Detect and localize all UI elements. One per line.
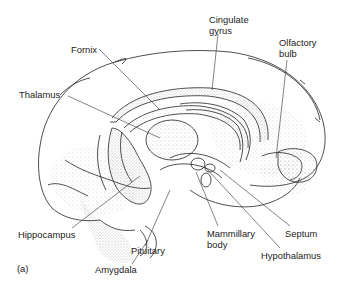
label-septum: Septum: [285, 228, 317, 239]
label-thalamus: Thalamus: [19, 89, 60, 100]
label-pituitary: Pituitary: [131, 245, 165, 256]
limbic-system-diagram: Fornix Thalamus Cingulate gyrus Olfactor…: [0, 0, 346, 292]
label-mammillary-body: Mammillary body: [207, 228, 255, 250]
label-amygdala: Amygdala: [95, 264, 137, 275]
panel-label: (a): [17, 263, 28, 274]
thalamus-shape: [146, 120, 198, 160]
label-hypothalamus: Hypothalamus: [261, 250, 321, 261]
label-fornix: Fornix: [71, 44, 97, 55]
label-hippocampus: Hippocampus: [18, 229, 75, 240]
label-olfactory-bulb: Olfactory bulb: [279, 37, 317, 59]
label-cingulate-gyrus: Cingulate gyrus: [209, 14, 249, 36]
